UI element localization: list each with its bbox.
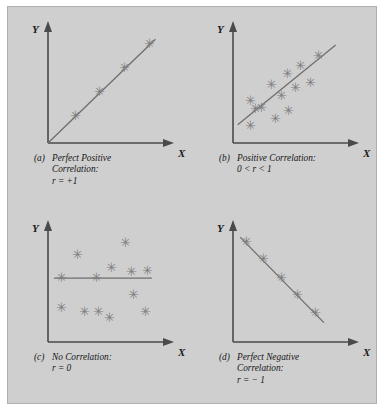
plot-area-c: ✳✳✳✳✳✳✳✳✳✳✳✳✳ Y X (8, 206, 193, 356)
caption-d: (d) Perfect Negative Correlation: r = − … (219, 352, 377, 386)
data-point: ✳ (91, 270, 102, 285)
x-axis-c (48, 338, 174, 346)
data-point: ✳ (126, 264, 137, 279)
data-point: ✳ (142, 263, 153, 278)
caption-b: (b) Positive Correlation: 0 < r < 1 (219, 153, 377, 176)
panel-title-a: Perfect Positive (52, 153, 192, 164)
data-point: ✳ (258, 251, 269, 266)
data-point: ✳ (270, 111, 281, 126)
data-point: ✳ (94, 84, 105, 99)
caption-c: (c) No Correlation: r = 0 (34, 352, 192, 375)
x-axis-d (233, 338, 359, 346)
x-axis-a (48, 139, 174, 147)
data-point: ✳ (295, 58, 306, 73)
data-point: ✳ (120, 235, 131, 250)
data-point: ✳ (305, 75, 316, 90)
data-point: ✳ (104, 310, 115, 325)
panel-positive-correlation: ✳✳✳✳✳✳✳✳✳✳✳✳✳ Y X (b) Positive Correlati… (193, 7, 378, 206)
data-point: ✳ (119, 60, 130, 75)
data-point: ✳ (292, 287, 303, 302)
data-point: ✳ (313, 48, 324, 63)
data-points-c: ✳✳✳✳✳✳✳✳✳✳✳✳✳ (56, 235, 153, 324)
panel-stat-c: r = 0 (52, 363, 192, 374)
caption-a: (a) Perfect Positive Correlation: r = +1 (34, 153, 192, 187)
y-axis-label-b: Y (217, 23, 225, 35)
y-axis-label-a: Y (32, 23, 40, 35)
data-point: ✳ (290, 80, 301, 95)
data-point: ✳ (276, 88, 287, 103)
x-axis-b (233, 139, 359, 147)
y-axis-label-d: Y (217, 222, 225, 234)
data-point: ✳ (241, 234, 252, 249)
panel-title-d-line2: Correlation: (237, 363, 377, 374)
panel-title-a-line2: Correlation: (52, 164, 192, 175)
y-axis-b (229, 21, 237, 143)
panel-tag-c: (c) (34, 352, 52, 363)
data-point: ✳ (276, 270, 287, 285)
panel-title-b: Positive Correlation: (237, 153, 377, 164)
y-axis-d (229, 220, 237, 342)
plot-area-b: ✳✳✳✳✳✳✳✳✳✳✳✳✳ Y X (193, 7, 378, 157)
data-point: ✳ (106, 260, 117, 275)
data-points-b: ✳✳✳✳✳✳✳✳✳✳✳✳✳ (245, 48, 323, 134)
y-axis-c (44, 220, 52, 342)
y-axis-a (44, 21, 52, 143)
panel-tag-b: (b) (219, 153, 237, 164)
panel-perfect-positive: ✳✳✳✳ Y X (a) Perfect Positive Correlatio… (8, 7, 193, 206)
panel-stat-d: r = − 1 (237, 375, 377, 386)
data-point: ✳ (128, 287, 139, 302)
panel-tag-d: (d) (219, 352, 237, 363)
data-point: ✳ (56, 300, 67, 315)
data-point: ✳ (79, 304, 90, 319)
figure-frame: ✳✳✳✳ Y X (a) Perfect Positive Correlatio… (7, 6, 377, 404)
data-point: ✳ (310, 305, 321, 320)
data-point: ✳ (144, 36, 155, 51)
panel-title-d: Perfect Negative (237, 352, 377, 363)
plot-area-a: ✳✳✳✳ Y X (8, 7, 193, 157)
panel-perfect-negative: ✳✳✳✳✳ Y X (d) Perfect Negative Correlati… (193, 206, 378, 405)
data-point: ✳ (140, 304, 151, 319)
data-point: ✳ (70, 108, 81, 123)
data-point: ✳ (72, 247, 83, 262)
data-point: ✳ (256, 100, 267, 115)
panel-stat-a: r = +1 (52, 176, 192, 187)
data-point: ✳ (56, 270, 67, 285)
data-point: ✳ (93, 304, 104, 319)
panel-title-c: No Correlation: (52, 352, 192, 363)
y-axis-label-c: Y (32, 222, 40, 234)
panel-no-correlation: ✳✳✳✳✳✳✳✳✳✳✳✳✳ Y X (c) No Correlation: r … (8, 206, 193, 405)
panel-stat-b: 0 < r < 1 (237, 164, 377, 175)
data-point: ✳ (283, 103, 294, 118)
panel-tag-a: (a) (34, 153, 52, 164)
data-point: ✳ (245, 118, 256, 133)
panel-grid: ✳✳✳✳ Y X (a) Perfect Positive Correlatio… (8, 7, 378, 405)
plot-area-d: ✳✳✳✳✳ Y X (193, 206, 378, 356)
